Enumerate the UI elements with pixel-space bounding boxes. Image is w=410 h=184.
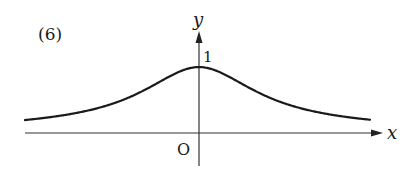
y-axis-arrow-icon xyxy=(196,31,203,43)
function-graph: (6) x y 1 O xyxy=(0,0,410,184)
origin-label: O xyxy=(177,140,190,159)
y-axis-label: y xyxy=(192,9,204,30)
y-tick-label-1: 1 xyxy=(203,48,213,66)
curve-line xyxy=(25,67,370,120)
x-axis-arrow-icon xyxy=(371,130,383,137)
x-axis-label: x xyxy=(387,122,397,143)
problem-label: (6) xyxy=(38,24,62,44)
